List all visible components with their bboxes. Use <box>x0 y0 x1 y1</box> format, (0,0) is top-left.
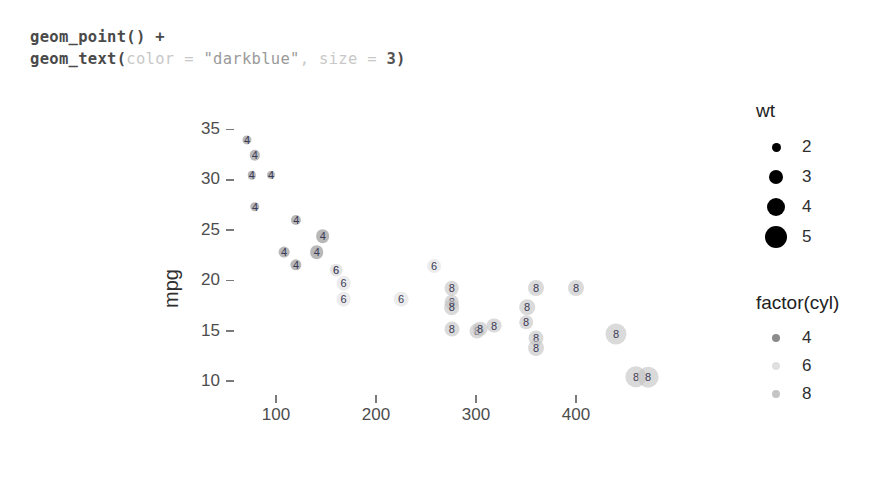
data-point-label: 4 <box>314 246 320 257</box>
data-point-label: 6 <box>341 294 347 305</box>
y-tick-15: 15 <box>160 321 220 341</box>
code-size-arg: size <box>319 50 358 68</box>
y-tick-10: 10 <box>160 371 220 391</box>
code-color-arg: color <box>126 50 174 68</box>
legend-color-item-4[interactable]: 4 <box>756 324 885 352</box>
legend-size-item-5[interactable]: 5 <box>756 222 885 252</box>
x-tick-mark-200 <box>375 395 377 403</box>
y-tick-30: 30 <box>160 169 220 189</box>
legend-size-label: 5 <box>802 227 811 247</box>
code-equals-2: = <box>358 50 387 68</box>
data-point-label: 4 <box>293 260 299 271</box>
data-point-label: 8 <box>533 283 539 294</box>
data-point-label: 4 <box>320 230 326 241</box>
legend-size-item-3[interactable]: 3 <box>756 162 885 192</box>
code-comma: , <box>300 50 319 68</box>
code-darkblue-string: "darkblue" <box>203 50 299 68</box>
legend-container: wt 2345 factor(cyl) 468 <box>756 100 885 408</box>
data-point-label: 6 <box>431 261 437 272</box>
y-tick-35: 35 <box>160 119 220 139</box>
y-tick-20: 20 <box>160 270 220 290</box>
legend-size-wt: wt 2345 <box>756 100 885 252</box>
legend-color-item-6[interactable]: 6 <box>756 352 885 380</box>
data-point-label: 4 <box>244 135 250 146</box>
data-point-label: 4 <box>293 214 299 225</box>
data-point-label: 8 <box>524 302 530 313</box>
legend-size-dot-icon <box>756 198 796 216</box>
legend-size-dot-icon <box>756 226 796 248</box>
plot-panel: 44444444446666668888888888888888 <box>236 119 656 391</box>
code-geom-point: geom_point() <box>30 28 146 46</box>
legend-color-dot-icon <box>756 362 796 370</box>
data-point-label: 8 <box>523 317 529 328</box>
legend-size-item-4[interactable]: 4 <box>756 192 885 222</box>
data-point-label: 4 <box>281 246 287 257</box>
y-tick-mark-10 <box>226 380 234 382</box>
code-snippet: geom_point() + geom_text(color = "darkbl… <box>30 26 406 70</box>
data-point-label: 4 <box>249 170 255 181</box>
data-point-label: 8 <box>533 342 539 353</box>
code-geom-text: geom_text( <box>30 50 126 68</box>
data-point-label: 8 <box>449 323 455 334</box>
code-plus-operator: + <box>146 28 165 46</box>
y-tick-mark-35 <box>226 129 234 131</box>
code-size-value: 3 <box>386 50 396 68</box>
data-point-label: 8 <box>491 320 497 331</box>
code-close-paren: ) <box>396 50 406 68</box>
data-point-label: 6 <box>341 278 347 289</box>
legend-size-label: 4 <box>802 197 811 217</box>
data-point-label: 8 <box>449 302 455 313</box>
data-point-label: 6 <box>398 294 404 305</box>
legend-size-title: wt <box>756 100 885 122</box>
data-point-label: 8 <box>573 283 579 294</box>
y-tick-mark-15 <box>226 330 234 332</box>
legend-color-label: 6 <box>802 356 811 376</box>
legend-color-item-8[interactable]: 8 <box>756 380 885 408</box>
data-point-label: 8 <box>477 323 483 334</box>
x-tick-mark-300 <box>475 395 477 403</box>
data-point-label: 8 <box>645 371 651 382</box>
legend-size-dot-icon <box>756 143 796 152</box>
y-tick-25: 25 <box>160 220 220 240</box>
data-point-label: 8 <box>449 283 455 294</box>
legend-color-title: factor(cyl) <box>756 292 885 314</box>
legend-size-dot-icon <box>756 170 796 184</box>
x-tick-300: 300 <box>462 405 490 425</box>
data-point-label: 6 <box>333 265 339 276</box>
x-tick-mark-400 <box>575 395 577 403</box>
x-tick-400: 400 <box>562 405 590 425</box>
legend-size-label: 3 <box>802 167 811 187</box>
y-tick-mark-30 <box>226 179 234 181</box>
scatter-plot: mpg disp 101520253035 100200300400 44444… <box>0 95 745 435</box>
x-tick-mark-100 <box>275 395 277 403</box>
data-point-label: 4 <box>252 201 258 212</box>
legend-size-item-2[interactable]: 2 <box>756 132 885 162</box>
code-equals-1: = <box>175 50 204 68</box>
data-point-label: 4 <box>268 170 274 181</box>
y-tick-mark-20 <box>226 280 234 282</box>
legend-color-dot-icon <box>756 390 796 398</box>
legend-size-label: 2 <box>802 137 811 157</box>
legend-color-cyl: factor(cyl) 468 <box>756 292 885 408</box>
x-tick-100: 100 <box>262 405 290 425</box>
legend-color-label: 4 <box>802 328 811 348</box>
y-tick-mark-25 <box>226 229 234 231</box>
legend-color-label: 8 <box>802 384 811 404</box>
legend-color-dot-icon <box>756 334 796 342</box>
x-tick-200: 200 <box>362 405 390 425</box>
data-point-label: 8 <box>613 328 619 339</box>
data-point-label: 4 <box>252 150 258 161</box>
